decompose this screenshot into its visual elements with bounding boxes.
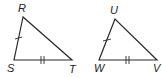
vertex-label-w: W bbox=[94, 62, 106, 74]
vertex-label-v: V bbox=[153, 62, 162, 74]
triangle-uwv: U W V bbox=[94, 4, 162, 74]
vertex-label-u: U bbox=[110, 4, 118, 16]
congruent-triangles-diagram: R S T U W V bbox=[0, 0, 162, 78]
vertex-label-s: S bbox=[7, 62, 15, 74]
vertex-label-t: T bbox=[69, 63, 77, 75]
vertex-label-r: R bbox=[18, 2, 26, 14]
triangle-rst-outline bbox=[14, 17, 72, 60]
triangle-rst: R S T bbox=[7, 2, 77, 75]
